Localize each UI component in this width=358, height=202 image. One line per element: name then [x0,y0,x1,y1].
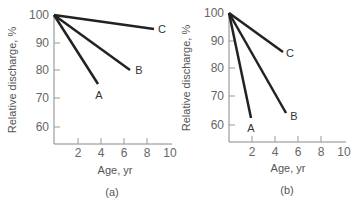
ytick-label: 70 [36,91,50,105]
series-line-a [229,13,251,118]
xtick-label: 8 [144,146,151,160]
y-ticks: 100 90 80 70 60 [29,8,60,134]
series-line-a [54,15,98,84]
ytick-label: 70 [211,89,225,103]
xtick-label: 10 [337,145,351,159]
xtick-label: 2 [249,145,256,159]
ytick-label: 100 [29,8,49,22]
xtick-label: 8 [318,145,325,159]
series-label-a: A [247,122,255,134]
xtick-label: 10 [163,146,177,160]
panel-label: (a) [105,186,118,198]
series-label-c: C [158,23,166,35]
xtick-label: 4 [272,145,279,159]
ytick-label: 90 [36,36,50,50]
xtick-label: 4 [98,146,105,160]
y-axis-label: Relative discharge, % [6,27,18,134]
xtick-label: 6 [295,145,302,159]
x-axis-label: Age, yr [271,162,306,174]
series-label-c: C [286,47,294,59]
series-label-b: B [290,110,297,122]
ytick-label: 80 [36,63,50,77]
charts-canvas: 100 90 80 70 60 2 4 6 8 10 A B C Age, yr… [0,0,358,202]
ytick-label: 60 [36,120,50,134]
xtick-label: 6 [121,146,128,160]
xtick-label: 2 [75,146,82,160]
y-axis-label: Relative discharge, % [180,25,192,132]
x-ticks: 2 4 6 8 10 [75,138,177,160]
ytick-label: 100 [204,6,224,20]
x-ticks: 2 4 6 8 10 [249,136,351,159]
chart-a: 100 90 80 70 60 2 4 6 8 10 A B C Age, yr… [6,8,177,198]
x-axis-label: Age, yr [98,164,133,176]
series-label-b: B [135,64,142,76]
ytick-label: 60 [211,118,225,132]
ytick-label: 80 [211,61,225,75]
panel-label: (b) [280,184,293,196]
ytick-label: 90 [211,34,225,48]
series-line-b [229,13,286,113]
series-label-a: A [95,89,103,101]
chart-b: 100 90 80 70 60 2 4 6 8 10 A B C Age, yr… [180,6,351,196]
